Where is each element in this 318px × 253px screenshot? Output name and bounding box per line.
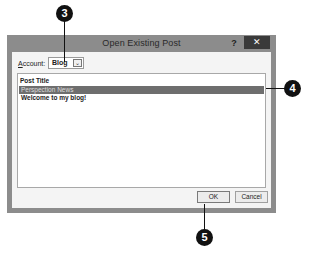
account-label: Account: bbox=[18, 60, 45, 67]
callout-5-leader-line bbox=[204, 204, 205, 230]
callout-4-badge: 4 bbox=[284, 80, 301, 97]
ok-button[interactable]: OK bbox=[197, 191, 230, 203]
account-value: Blog bbox=[52, 59, 68, 66]
list-item-selected[interactable]: Perspection News bbox=[19, 86, 264, 94]
cancel-button[interactable]: Cancel bbox=[235, 191, 268, 203]
account-label-text: ccount: bbox=[23, 60, 46, 67]
list-item[interactable]: Welcome to my blog! bbox=[19, 94, 264, 102]
post-list[interactable]: Post Title Perspection News Welcome to m… bbox=[17, 73, 266, 188]
callout-3-leader-line bbox=[64, 20, 65, 62]
callout-4-leader-line bbox=[266, 88, 286, 89]
close-button[interactable]: ✕ bbox=[244, 36, 270, 49]
chevron-down-icon[interactable]: ⌄ bbox=[73, 59, 82, 67]
help-button[interactable]: ? bbox=[228, 37, 240, 49]
account-dropdown[interactable]: Blog ⌄ bbox=[48, 57, 84, 69]
close-icon: ✕ bbox=[253, 37, 261, 47]
dialog-body: Account: Blog ⌄ Post Title Perspection N… bbox=[12, 52, 271, 208]
list-header-post-title: Post Title bbox=[20, 77, 49, 84]
open-existing-post-dialog: Open Existing Post ? ✕ Account: Blog ⌄ P… bbox=[7, 35, 276, 213]
dialog-title-bar[interactable]: Open Existing Post ? ✕ bbox=[7, 35, 276, 52]
callout-5-badge: 5 bbox=[196, 229, 213, 246]
callout-3-badge: 3 bbox=[56, 5, 73, 22]
